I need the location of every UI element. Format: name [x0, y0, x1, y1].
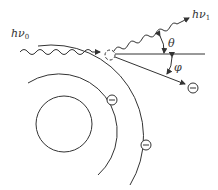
- electron-icon-recoil: [188, 83, 198, 93]
- scattered-photon-wave: [114, 18, 189, 51]
- incident-photon-wave: [20, 50, 100, 55]
- inner-orbit-arc: [28, 74, 117, 175]
- phi-label: φ: [174, 61, 182, 74]
- incident-photon-label: hν0: [11, 27, 29, 41]
- vacancy-icon: [105, 50, 115, 60]
- nucleus-circle: [36, 96, 92, 152]
- theta-arc: [160, 36, 164, 53]
- theta-label: θ: [168, 37, 175, 50]
- electron-icon-outer: [141, 140, 151, 150]
- compton-diagram: hν0 hν1 θ φ: [0, 0, 218, 190]
- scattered-photon-label: hν1: [192, 8, 210, 22]
- phi-arc: [167, 57, 172, 74]
- electron-icon-inner: [107, 95, 117, 105]
